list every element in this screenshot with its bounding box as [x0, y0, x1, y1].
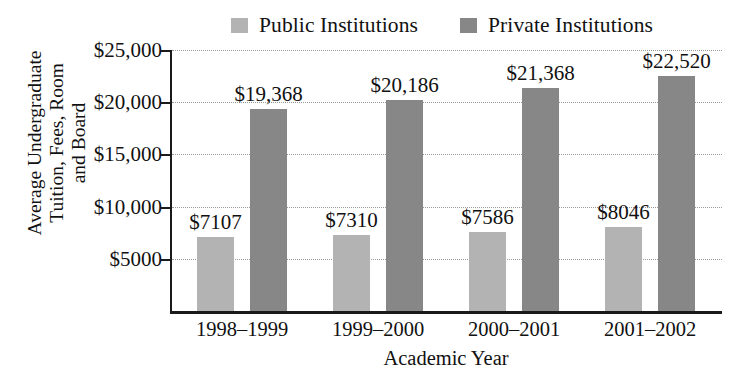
bar-value-label: $7310: [305, 210, 398, 231]
bar-public: [469, 232, 506, 311]
x-axis-category-label: 2000–2001: [441, 318, 587, 340]
legend-label-private: Private Institutions: [488, 12, 653, 38]
bar-value-label: $7107: [169, 212, 262, 233]
x-axis-category-label: 1998–1999: [169, 318, 315, 340]
bar-value-label: $22,520: [630, 51, 723, 72]
y-axis-tick-label: $5000: [58, 249, 162, 270]
bar-value-label: $7586: [441, 207, 534, 228]
bar-value-label: $19,368: [222, 84, 315, 105]
y-axis-tick-label: $10,000: [58, 197, 162, 218]
legend-entry-public: Public Institutions: [231, 12, 418, 38]
y-axis-tick-mark: [161, 259, 172, 261]
bar-private: [658, 76, 695, 311]
legend-swatch-public-icon: [231, 18, 248, 33]
y-axis-line: [170, 50, 172, 313]
x-axis-category-label: 1999–2000: [305, 318, 451, 340]
legend-label-public: Public Institutions: [259, 12, 418, 38]
legend-swatch-private-icon: [460, 18, 477, 33]
bar-private: [386, 100, 423, 311]
y-axis-tick-label: $20,000: [58, 92, 162, 113]
x-axis-line: [170, 311, 722, 314]
bar-value-label: $8046: [577, 202, 670, 223]
x-axis-category-label: 2001–2002: [577, 318, 723, 340]
y-axis-tick-mark: [161, 50, 172, 52]
y-axis-tick-label: $25,000: [58, 40, 162, 61]
bar-private: [522, 88, 559, 311]
x-axis-title: Academic Year: [170, 347, 722, 369]
y-axis-tick-mark: [161, 207, 172, 209]
y-axis-tick-mark: [161, 154, 172, 156]
bar-public: [333, 235, 370, 311]
bar-public: [605, 227, 642, 311]
legend-entry-private: Private Institutions: [460, 12, 653, 38]
y-axis-tick-label: $15,000: [58, 144, 162, 165]
y-axis-tick-mark: [161, 102, 172, 104]
y-axis-tick-labels: $25,000$20,000$15,000$10,000$5000: [58, 0, 162, 380]
bar-private: [250, 109, 287, 311]
bar-public: [197, 237, 234, 311]
bar-value-label: $20,186: [358, 75, 451, 96]
plot-area: $7107$19,368$7310$20,186$7586$21,368$804…: [170, 50, 722, 313]
bar-value-label: $21,368: [494, 63, 587, 84]
